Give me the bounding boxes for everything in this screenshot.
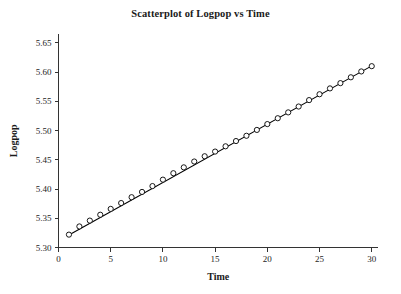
data-point: [296, 104, 301, 109]
data-point: [369, 64, 374, 69]
x-tick-label: 20: [263, 254, 273, 264]
x-tick-label: 0: [56, 254, 61, 264]
data-point: [254, 127, 259, 132]
scatterplot-screenshot: Scatterplot of Logpop vs Time 5.305.355.…: [0, 0, 401, 294]
data-point: [275, 116, 280, 121]
data-point: [87, 218, 92, 223]
y-tick-label: 5.60: [36, 67, 52, 77]
y-tick-label: 5.35: [36, 213, 52, 223]
data-point: [139, 189, 144, 194]
data-point: [108, 206, 113, 211]
y-axis-tick-labels: 5.305.355.405.455.505.555.605.65: [36, 38, 52, 253]
data-point: [171, 171, 176, 176]
data-point: [119, 200, 124, 205]
data-point: [359, 69, 364, 74]
y-tick-label: 5.55: [36, 96, 52, 106]
x-tick-label: 15: [211, 254, 221, 264]
x-tick-label: 10: [158, 254, 168, 264]
data-point: [213, 149, 218, 154]
data-point: [327, 86, 332, 91]
scatter-chart: 5.305.355.405.455.505.555.605.65 0510152…: [0, 0, 401, 294]
data-point: [306, 97, 311, 102]
y-tick-label: 5.30: [36, 243, 52, 253]
x-axis-title: Time: [207, 271, 230, 282]
x-tick-label: 25: [315, 254, 325, 264]
y-tick-label: 5.65: [36, 38, 52, 48]
data-point: [265, 121, 270, 126]
data-point: [160, 177, 165, 182]
data-point: [317, 92, 322, 97]
trend-line: [69, 66, 372, 235]
data-point: [348, 75, 353, 80]
x-axis-tick-labels: 051015202530: [56, 254, 376, 264]
data-point: [66, 232, 71, 237]
y-tick-label: 5.45: [36, 155, 52, 165]
data-point: [202, 154, 207, 159]
x-axis-tick-marks: [59, 248, 372, 252]
data-point: [223, 144, 228, 149]
y-tick-label: 5.50: [36, 126, 52, 136]
data-point: [129, 195, 134, 200]
y-axis-title: Logpop: [8, 124, 19, 157]
data-point: [192, 159, 197, 164]
data-point: [244, 133, 249, 138]
data-point: [233, 138, 238, 143]
data-point: [150, 183, 155, 188]
x-tick-label: 30: [367, 254, 377, 264]
y-tick-label: 5.40: [36, 184, 52, 194]
data-point: [286, 110, 291, 115]
data-point: [181, 165, 186, 170]
x-tick-label: 5: [108, 254, 113, 264]
data-point: [338, 81, 343, 86]
y-axis-tick-marks: [55, 43, 59, 248]
data-point: [98, 212, 103, 217]
data-point: [77, 224, 82, 229]
